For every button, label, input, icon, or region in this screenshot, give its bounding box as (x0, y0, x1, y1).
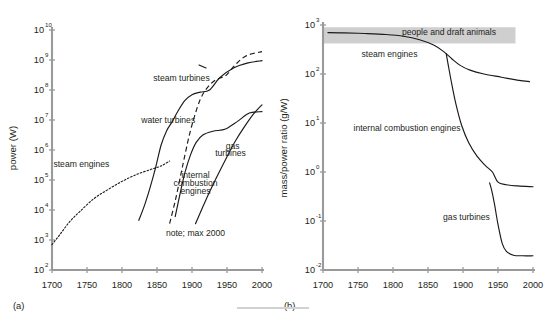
y-tick-exponent: 7 (45, 111, 49, 118)
y-tick-label: 10 (34, 115, 44, 125)
annotation-label: note; max 2000 (166, 228, 225, 238)
panel-b-label: (b) (284, 300, 295, 311)
x-tick-label: 1950 (488, 280, 508, 290)
y-tick-exponent: 0 (316, 163, 320, 170)
y-tick-exponent: 3 (45, 231, 49, 238)
y-tick-exponent: 2 (316, 65, 320, 72)
x-tick-label: 1700 (313, 280, 333, 290)
y-tick-label: 10 (34, 145, 44, 155)
y-tick-exponent: 8 (45, 81, 49, 88)
y-tick-exponent: 10 (45, 21, 52, 28)
x-tick-label: 2000 (523, 280, 543, 290)
chart-a-annotations: steam turbineswater turbinessteam engine… (53, 73, 245, 238)
annotation-label: turbines (215, 148, 246, 158)
chart-b-series-group (328, 33, 533, 256)
chart-b-svg: mass/power ratio (g/W) 10 -2 10 -1 10 0 … (273, 0, 546, 320)
y-tick-label: 10 (305, 20, 315, 30)
series-gas-turbines (196, 105, 263, 224)
chart-a-y-ticklabels: 10 2 10 3 10 4 10 5 10 6 10 7 10 8 10 9 (34, 21, 53, 275)
annotation-label: steam engines (362, 49, 418, 59)
y-tick-label: 10 (305, 216, 315, 226)
y-tick-label: 10 (305, 265, 315, 275)
annotation-label: steam turbines (153, 73, 209, 83)
y-tick-label: 10 (34, 235, 44, 245)
annotation-label: steam engines (53, 159, 109, 169)
annotation-label: gas turbines (443, 212, 490, 222)
y-tick-label: 10 (34, 55, 44, 65)
x-tick-label: 1800 (112, 280, 132, 290)
x-tick-label: 1750 (348, 280, 368, 290)
chart-panel-a: power (W) 10 2 10 3 10 4 10 5 10 6 10 7 … (0, 0, 273, 320)
y-tick-label: 10 (305, 167, 315, 177)
y-tick-exponent: 5 (45, 171, 49, 178)
y-tick-exponent: 3 (316, 16, 320, 23)
y-tick-exponent: -1 (316, 212, 322, 219)
chart-b-annotations: people and draft animalssteam enginesint… (353, 27, 496, 222)
x-tick-label: 2000 (252, 280, 272, 290)
series-steam-engines (52, 161, 170, 245)
y-tick-label: 10 (34, 25, 44, 35)
x-tick-label: 1800 (383, 280, 403, 290)
x-tick-label: 1850 (147, 280, 167, 290)
chart-a-x-ticklabels: 1700 1750 1800 1850 1900 1950 2000 (42, 280, 272, 290)
y-tick-exponent: 2 (45, 261, 49, 268)
y-tick-label: 10 (34, 85, 44, 95)
y-tick-label: 10 (34, 175, 44, 185)
chart-b-y-axis-title: mass/power ratio (g/W) (278, 98, 289, 197)
chart-b-y-ticklabels: 10 -2 10 -1 10 0 10 1 10 2 10 3 (305, 16, 322, 275)
y-tick-exponent: 9 (45, 51, 49, 58)
x-tick-label: 1900 (182, 280, 202, 290)
footer-rule (237, 307, 309, 309)
annotation-label: internal combustion engines (353, 123, 460, 133)
chart-a-svg: power (W) 10 2 10 3 10 4 10 5 10 6 10 7 … (0, 0, 273, 320)
figure-root: power (W) 10 2 10 3 10 4 10 5 10 6 10 7 … (0, 0, 546, 320)
y-tick-label: 10 (305, 69, 315, 79)
y-tick-exponent: -2 (316, 261, 322, 268)
series-gas-turbines (490, 183, 533, 256)
y-tick-exponent: 4 (45, 201, 49, 208)
x-tick-label: 1900 (453, 280, 473, 290)
series-internal-combustion-engines (446, 54, 533, 187)
chart-a-leader-lines (199, 65, 206, 68)
x-tick-label: 1700 (42, 280, 62, 290)
annotation-label: water turbines (140, 115, 195, 125)
chart-panel-b: mass/power ratio (g/W) 10 -2 10 -1 10 0 … (273, 0, 546, 320)
y-tick-label: 10 (34, 205, 44, 215)
y-tick-exponent: 6 (45, 141, 49, 148)
series-internal-combustion-engines (175, 112, 262, 217)
chart-b-x-ticklabels: 1700 1750 1800 1850 1900 1950 2000 (313, 280, 543, 290)
chart-a-y-axis-title: power (W) (7, 126, 18, 170)
y-tick-exponent: 1 (316, 114, 320, 121)
y-tick-label: 10 (305, 118, 315, 128)
panel-a-label: (a) (13, 300, 24, 311)
y-tick-label: 10 (34, 265, 44, 275)
annotation-label: engines (180, 186, 210, 196)
x-tick-label: 1750 (77, 280, 97, 290)
x-tick-label: 1950 (217, 280, 237, 290)
x-tick-label: 1850 (418, 280, 438, 290)
annotation-label: people and draft animals (402, 27, 496, 37)
